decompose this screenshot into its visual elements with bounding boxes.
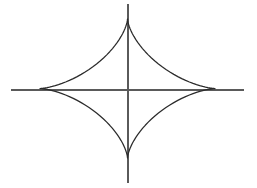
astroid-figure-svg: [0, 0, 257, 188]
astroid-figure-container: [0, 0, 257, 188]
